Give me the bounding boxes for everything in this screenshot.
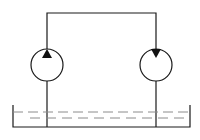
pressure-line [47,13,156,49]
tank-symbol [13,105,190,127]
tank-outline [13,105,190,127]
motor-symbol [140,49,172,81]
hydraulic-circuit-diagram [0,0,200,140]
pump-symbol [31,49,63,81]
